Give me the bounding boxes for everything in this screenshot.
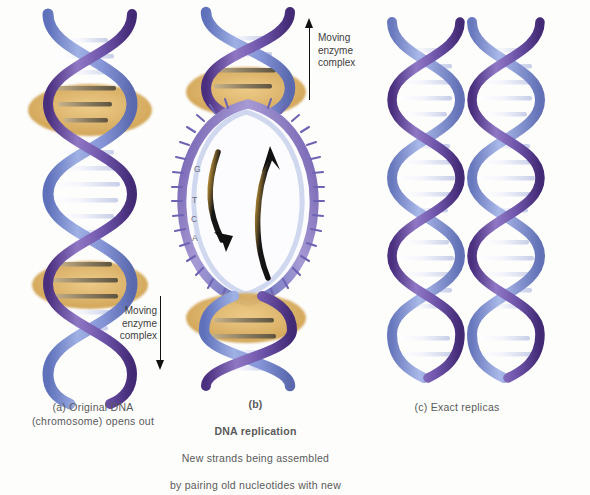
caption-panel-b-line2: by pairing old nucleotides with new — [168, 479, 343, 493]
base-letter: A — [192, 233, 198, 243]
base-letter: C — [191, 214, 197, 224]
moving-enzyme-arrow-up-line — [309, 26, 310, 100]
caption-panel-b: (b) DNA replication New strands being as… — [168, 384, 343, 495]
moving-enzyme-arrow-down-head — [156, 360, 164, 370]
caption-panel-a: (a) Original DNA (chromosome) opens out — [18, 401, 168, 428]
caption-panel-b-label: (b) — [168, 398, 343, 412]
caption-panel-b-heading: DNA replication — [168, 425, 343, 439]
moving-enzyme-label-top: Moving enzyme complex — [318, 32, 372, 70]
moving-enzyme-label-bottom: Moving enzyme complex — [107, 305, 157, 343]
base-letter: T — [192, 195, 197, 205]
caption-panel-c: (c) Exact replicas — [392, 401, 522, 415]
moving-enzyme-arrow-down-line — [160, 296, 161, 366]
caption-panel-b-line1: New strands being assembled — [168, 452, 343, 466]
base-letter: G — [194, 164, 201, 174]
